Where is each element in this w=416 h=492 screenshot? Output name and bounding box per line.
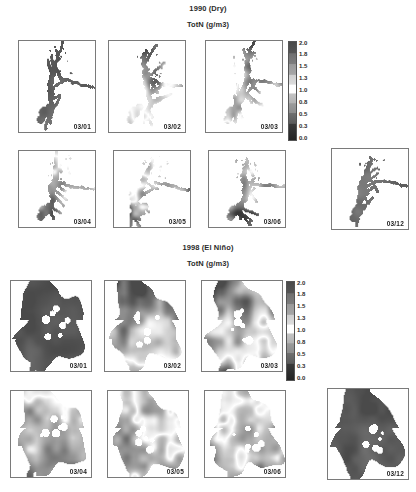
- panel-date-label: 03/02: [164, 123, 181, 130]
- colorbar-tick: 1.8: [297, 291, 305, 297]
- map-panel[interactable]: 03/02: [104, 280, 186, 372]
- figure-root: 1990 (Dry) TotN (g/m3) 03/01 03/02 03/03…: [0, 0, 416, 492]
- colorbar-ticks: 2.0 1.8 1.5 1.3 1.0 0.8 0.5 0.3 0.0: [297, 281, 315, 381]
- map-canvas: [202, 281, 282, 371]
- colorbar-tick: 0.8: [299, 99, 307, 105]
- colorbar-tick: 1.3: [299, 75, 307, 81]
- panel-date-label: 03/03: [261, 123, 278, 130]
- colorbar-tick: 1.0: [297, 327, 305, 333]
- map-canvas: [114, 151, 190, 227]
- panel-date-label: 03/03: [261, 362, 278, 369]
- colorbar-tick: 1.0: [299, 87, 307, 93]
- map-canvas: [105, 281, 185, 371]
- map-canvas: [206, 41, 282, 132]
- panel-date-label: 03/06: [264, 468, 281, 475]
- colorbar-tick: 2.0: [299, 40, 307, 46]
- map-panel[interactable]: 03/06: [204, 390, 286, 478]
- map-panel[interactable]: 03/04: [10, 390, 92, 478]
- colorbar-gradient: [288, 41, 297, 141]
- map-canvas: [11, 391, 91, 477]
- map-panel[interactable]: 03/03: [205, 40, 283, 133]
- map-panel[interactable]: 03/05: [107, 390, 189, 478]
- panel-date-label: 03/01: [70, 362, 87, 369]
- colorbar-ticks: 2.0 1.8 1.5 1.3 1.0 0.8 0.5 0.3 0.0: [299, 41, 317, 141]
- section-title-1990: 1990 (Dry): [0, 4, 416, 13]
- panel-date-label: 03/02: [164, 362, 181, 369]
- colorbar-tick: 0.0: [299, 135, 307, 141]
- colorbar-1990: 2.0 1.8 1.5 1.3 1.0 0.8 0.5 0.3 0.0: [288, 41, 318, 141]
- panel-date-label: 03/01: [74, 123, 91, 130]
- map-canvas: [19, 151, 95, 227]
- colorbar-tick: 0.5: [299, 111, 307, 117]
- section-title-1998: 1998 (El Niño): [0, 243, 416, 252]
- panel-date-label: 03/12: [387, 470, 404, 477]
- map-canvas: [109, 41, 185, 132]
- colorbar-tick: 1.5: [297, 303, 305, 309]
- map-canvas: [108, 391, 188, 477]
- colorbar-tick: 0.0: [297, 375, 305, 381]
- panel-date-label: 03/05: [169, 218, 186, 225]
- panel-date-label: 03/05: [167, 468, 184, 475]
- section-subtitle-1990: TotN (g/m3): [0, 20, 416, 29]
- colorbar-gradient: [286, 281, 295, 381]
- map-panel[interactable]: 03/03: [201, 280, 283, 372]
- panel-date-label: 03/06: [264, 218, 281, 225]
- map-canvas: [332, 149, 408, 229]
- map-panel[interactable]: 03/01: [10, 280, 92, 372]
- colorbar-tick: 0.3: [297, 363, 305, 369]
- colorbar-tick: 1.5: [299, 63, 307, 69]
- colorbar-tick: 0.8: [297, 339, 305, 345]
- map-panel[interactable]: 03/02: [108, 40, 186, 133]
- section-subtitle-1998: TotN (g/m3): [0, 259, 416, 268]
- map-canvas: [328, 389, 408, 479]
- colorbar-tick: 1.3: [297, 315, 305, 321]
- colorbar-tick: 0.5: [297, 351, 305, 357]
- map-panel[interactable]: 03/06: [208, 150, 286, 228]
- map-panel[interactable]: 03/12: [331, 148, 409, 230]
- colorbar-tick: 0.3: [299, 123, 307, 129]
- map-panel[interactable]: 03/12: [327, 388, 409, 480]
- panel-date-label: 03/12: [387, 220, 404, 227]
- colorbar-tick: 2.0: [297, 280, 305, 286]
- map-panel[interactable]: 03/04: [18, 150, 96, 228]
- map-canvas: [11, 281, 91, 371]
- colorbar-tick: 1.8: [299, 51, 307, 57]
- panel-date-label: 03/04: [70, 468, 87, 475]
- map-canvas: [209, 151, 285, 227]
- map-canvas: [19, 41, 95, 132]
- panel-date-label: 03/04: [74, 218, 91, 225]
- map-panel[interactable]: 03/01: [18, 40, 96, 133]
- map-panel[interactable]: 03/05: [113, 150, 191, 228]
- colorbar-1998: 2.0 1.8 1.5 1.3 1.0 0.8 0.5 0.3 0.0: [286, 281, 316, 381]
- map-canvas: [205, 391, 285, 477]
